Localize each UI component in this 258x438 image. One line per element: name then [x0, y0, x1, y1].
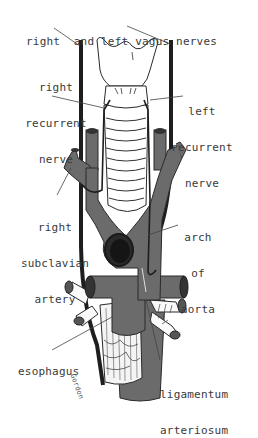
label-line: recurrent — [170, 142, 234, 154]
label-line: arteriosum — [160, 425, 228, 437]
label-line: right — [24, 82, 88, 94]
label-right-recurrent-nerve: right recurrent nerve — [24, 58, 88, 178]
trachea — [104, 105, 148, 212]
label-line: left — [170, 106, 234, 118]
label-line: recurrent — [24, 118, 88, 130]
label-line: nerve — [170, 178, 234, 190]
label-left-recurrent-nerve: left recurrent nerve — [170, 82, 234, 202]
label-line: artery — [20, 294, 90, 306]
label-right-subclavian-artery: right subclavian artery — [20, 198, 90, 318]
label-vagus-nerves: right and left vagus nerves — [26, 12, 217, 60]
label-line: of — [178, 268, 218, 280]
label-line: subclavian — [20, 258, 90, 270]
label-line: nerve — [24, 154, 88, 166]
label-arch-of-aorta: arch of aorta — [178, 208, 218, 328]
label-line: right — [20, 222, 90, 234]
label-line: ligamentum — [160, 389, 228, 401]
label-line: arch — [178, 232, 218, 244]
label-line: right and left vagus nerves — [26, 36, 217, 48]
label-line: aorta — [178, 304, 218, 316]
label-ligamentum-arteriosum: ligamentum arteriosum — [160, 365, 228, 438]
